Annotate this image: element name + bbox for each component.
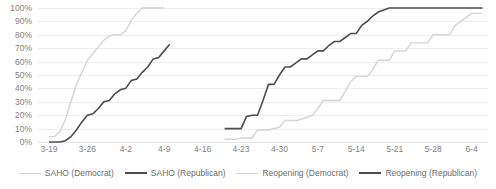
x-axis-tick-label: 5-14 <box>348 144 365 154</box>
x-axis: 3-193-264-24-94-164-234-305-75-145-215-2… <box>38 144 488 158</box>
y-axis-tick-label: 50% <box>15 71 32 79</box>
x-axis-tick-label: 3-26 <box>79 144 96 154</box>
y-axis-tick-label: 40% <box>15 84 32 92</box>
legend-label: Reopening (Republican) <box>385 169 477 178</box>
y-axis-tick-label: 80% <box>15 31 32 39</box>
x-axis-tick-label: 5-21 <box>386 144 403 154</box>
series-line <box>49 44 170 142</box>
x-axis-tick-label: 5-7 <box>312 144 324 154</box>
series-line <box>225 13 483 139</box>
legend-line-swatch-icon <box>125 172 147 174</box>
legend-line-swatch-icon <box>236 173 258 174</box>
plot-area <box>38 8 488 142</box>
y-axis-tick-label: 100% <box>10 4 32 12</box>
legend-line-swatch-icon <box>19 173 41 174</box>
y-axis-tick-label: 0% <box>20 138 32 146</box>
x-axis-tick-label: 4-9 <box>158 144 170 154</box>
legend-item[interactable]: SAHO (Democrat) <box>19 169 114 178</box>
series-lines <box>38 8 488 142</box>
x-axis-tick-label: 3-19 <box>40 144 57 154</box>
y-axis-tick-label: 30% <box>15 98 32 106</box>
y-axis-tick-label: 70% <box>15 44 32 52</box>
gridline <box>38 142 488 143</box>
y-axis-tick-label: 20% <box>15 111 32 119</box>
legend-item[interactable]: Reopening (Republican) <box>359 169 477 178</box>
x-axis-tick-label: 5-28 <box>425 144 442 154</box>
y-axis-tick-label: 10% <box>15 125 32 133</box>
legend-label: SAHO (Republican) <box>151 169 226 178</box>
series-line <box>225 8 483 129</box>
legend-item[interactable]: SAHO (Republican) <box>125 169 226 178</box>
x-axis-tick-label: 4-23 <box>233 144 250 154</box>
legend-item[interactable]: Reopening (Democrat) <box>236 169 348 178</box>
legend-line-swatch-icon <box>359 172 381 174</box>
x-axis-tick-label: 4-2 <box>120 144 132 154</box>
y-axis-tick-label: 90% <box>15 17 32 25</box>
chart-legend: SAHO (Democrat)SAHO (Republican)Reopenin… <box>0 163 496 183</box>
y-axis: 0%10%20%30%40%50%60%70%80%90%100% <box>0 0 36 150</box>
x-axis-tick-label: 4-16 <box>194 144 211 154</box>
series-line <box>49 8 164 137</box>
legend-label: SAHO (Democrat) <box>45 169 114 178</box>
y-axis-tick-label: 60% <box>15 58 32 66</box>
chart-container: 0%10%20%30%40%50%60%70%80%90%100% 3-193-… <box>0 0 496 189</box>
legend-label: Reopening (Democrat) <box>262 169 348 178</box>
x-axis-tick-label: 4-30 <box>271 144 288 154</box>
x-axis-tick-label: 6-4 <box>465 144 477 154</box>
